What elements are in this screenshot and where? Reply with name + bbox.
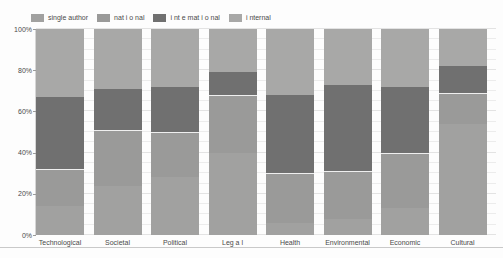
chart-legend: single authornat i o nali nt e mat i o n… bbox=[31, 13, 280, 23]
legend-item-3: i nt e mat i o nal bbox=[153, 14, 219, 22]
legend-item-2: nat i o nal bbox=[97, 14, 144, 22]
bar-economic bbox=[381, 29, 429, 235]
plot-area bbox=[36, 29, 496, 235]
legend-label: i nternal bbox=[246, 14, 271, 22]
bar-segment-i-nternal bbox=[324, 29, 372, 85]
x-axis-label-cultural: Cultural bbox=[428, 238, 498, 247]
bar-segment-i-nt-e-mat-i-o-nal bbox=[94, 89, 142, 130]
bar-societal bbox=[94, 29, 142, 235]
bar-segment-nat-i-o-nal bbox=[94, 130, 142, 186]
figure-bottom-rule bbox=[0, 247, 503, 248]
bar-segment-nat-i-o-nal bbox=[324, 171, 372, 218]
bar-segment-single-author bbox=[151, 177, 199, 235]
bar-segment-i-nt-e-mat-i-o-nal bbox=[151, 87, 199, 132]
bar-political bbox=[151, 29, 199, 235]
bar-segment-single-author bbox=[94, 186, 142, 235]
bar-segment-i-nternal bbox=[439, 29, 487, 66]
y-axis-tick bbox=[33, 111, 36, 112]
bar-segment-i-nt-e-mat-i-o-nal bbox=[209, 72, 257, 95]
bar-segment-i-nternal bbox=[381, 29, 429, 87]
y-axis-tick bbox=[33, 194, 36, 195]
bar-segment-single-author bbox=[36, 206, 84, 235]
legend-swatch bbox=[153, 14, 166, 22]
stacked-bar-chart-figure: single authornat i o nali nt e mat i o n… bbox=[0, 0, 503, 258]
y-axis-tick bbox=[33, 153, 36, 154]
y-axis-label-80: 80% bbox=[2, 67, 32, 74]
bar-environmental bbox=[324, 29, 372, 235]
bar-segment-i-nt-e-mat-i-o-nal bbox=[439, 66, 487, 93]
legend-item-4: i nternal bbox=[229, 14, 271, 22]
legend-label: nat i o nal bbox=[114, 14, 144, 22]
bar-health bbox=[266, 29, 314, 235]
bar-segment-single-author bbox=[381, 208, 429, 235]
legend-label: i nt e mat i o nal bbox=[170, 14, 219, 22]
bar-segment-i-nt-e-mat-i-o-nal bbox=[324, 85, 372, 172]
y-axis-label-20: 20% bbox=[2, 190, 32, 197]
bar-technological bbox=[36, 29, 84, 235]
bar-segment-nat-i-o-nal bbox=[209, 95, 257, 153]
bar-segment-i-nternal bbox=[209, 29, 257, 72]
bar-segment-i-nt-e-mat-i-o-nal bbox=[36, 97, 84, 169]
bar-segment-nat-i-o-nal bbox=[266, 173, 314, 222]
y-axis-tick bbox=[33, 235, 36, 236]
bar-segment-single-author bbox=[439, 124, 487, 235]
bar-segment-i-nt-e-mat-i-o-nal bbox=[381, 87, 429, 153]
y-axis-label-60: 60% bbox=[2, 108, 32, 115]
bar-segment-i-nternal bbox=[94, 29, 142, 89]
bar-segment-nat-i-o-nal bbox=[36, 169, 84, 206]
legend-item-1: single author bbox=[31, 14, 88, 22]
y-axis-label-40: 40% bbox=[2, 149, 32, 156]
bar-segment-nat-i-o-nal bbox=[151, 132, 199, 177]
bar-leg-a-l bbox=[209, 29, 257, 235]
y-axis-tick bbox=[33, 29, 36, 30]
bar-segment-i-nternal bbox=[151, 29, 199, 87]
bar-segment-single-author bbox=[209, 153, 257, 235]
legend-label: single author bbox=[48, 14, 88, 22]
bar-segment-single-author bbox=[266, 223, 314, 235]
bar-cultural bbox=[439, 29, 487, 235]
bar-segment-single-author bbox=[324, 219, 372, 235]
y-axis-label-100: 100% bbox=[2, 26, 32, 33]
bar-segment-nat-i-o-nal bbox=[439, 93, 487, 124]
y-axis-tick bbox=[33, 70, 36, 71]
legend-swatch bbox=[97, 14, 110, 22]
legend-swatch bbox=[31, 14, 44, 22]
legend-swatch bbox=[229, 14, 242, 22]
bar-segment-i-nternal bbox=[266, 29, 314, 95]
bar-segment-i-nt-e-mat-i-o-nal bbox=[266, 95, 314, 173]
bar-segment-nat-i-o-nal bbox=[381, 153, 429, 209]
bar-segment-i-nternal bbox=[36, 29, 84, 97]
